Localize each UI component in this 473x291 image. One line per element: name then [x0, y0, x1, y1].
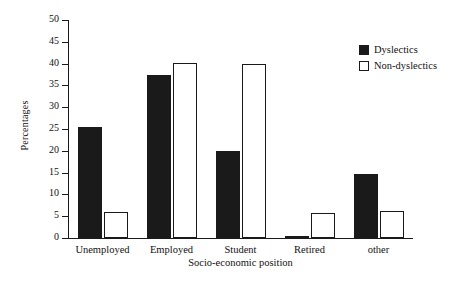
- x-axis-category-label: Unemployed: [68, 243, 137, 256]
- y-axis-tick-label: 15: [49, 166, 59, 178]
- y-axis-tick: 0: [62, 238, 68, 239]
- y-axis-tick-label: 20: [49, 144, 59, 156]
- bar-non-dyslectics: [104, 212, 128, 238]
- x-axis-category-label: Employed: [137, 243, 206, 256]
- y-axis-tick: 20: [62, 151, 68, 152]
- y-axis-line: [68, 20, 69, 239]
- x-axis-title: Socio-economic position: [68, 257, 413, 268]
- bar-non-dyslectics: [380, 211, 404, 238]
- y-axis-tick: 25: [62, 129, 68, 130]
- legend-swatch-non-dyslectics: [359, 61, 369, 71]
- bar-dyslectics: [147, 75, 171, 238]
- x-axis-category-label: Student: [206, 243, 275, 256]
- x-axis-category-label: Retired: [275, 243, 344, 256]
- bar-non-dyslectics: [311, 213, 335, 238]
- y-axis-tick-label: 25: [49, 122, 59, 134]
- y-axis-tick-label: 40: [49, 57, 59, 69]
- legend-label-dyslectics: Dyslectics: [374, 44, 418, 56]
- y-axis-tick: 45: [62, 42, 68, 43]
- bar-non-dyslectics: [173, 63, 197, 238]
- legend-item-non-dyslectics: Non-dyslectics: [359, 58, 471, 73]
- chart-legend: Dyslectics Non-dyslectics: [359, 42, 471, 74]
- y-axis-tick: 5: [62, 216, 68, 217]
- y-axis-tick: 40: [62, 64, 68, 65]
- y-axis-tick-label: 5: [54, 209, 59, 221]
- y-axis-tick-label: 50: [49, 13, 59, 25]
- legend-swatch-dyslectics: [359, 45, 369, 55]
- y-axis-tick: 35: [62, 85, 68, 86]
- x-axis-line: [68, 238, 413, 239]
- x-axis-category-label: other: [344, 243, 413, 256]
- bar-group: [285, 20, 335, 238]
- y-axis-tick-label: 35: [49, 78, 59, 90]
- bar-dyslectics: [354, 174, 378, 238]
- bar-dyslectics: [216, 151, 240, 238]
- y-axis-tick-label: 0: [54, 231, 59, 243]
- bar-group: [78, 20, 128, 238]
- legend-label-non-dyslectics: Non-dyslectics: [374, 60, 437, 72]
- y-axis-tick-label: 10: [49, 187, 59, 199]
- y-axis-title: Percentages: [19, 76, 30, 176]
- y-axis-tick-label: 45: [49, 35, 59, 47]
- bar-group: [216, 20, 266, 238]
- y-axis-tick: 10: [62, 194, 68, 195]
- y-axis-tick-label: 30: [49, 100, 59, 112]
- y-axis-tick: 15: [62, 173, 68, 174]
- y-axis-tick: 30: [62, 107, 68, 108]
- bar-group: [147, 20, 197, 238]
- bar-chart-figure: Percentages 05101520253035404550 Unemplo…: [0, 0, 473, 291]
- bar-non-dyslectics: [242, 64, 266, 238]
- bar-dyslectics: [285, 236, 309, 238]
- bar-dyslectics: [78, 127, 102, 238]
- legend-item-dyslectics: Dyslectics: [359, 42, 471, 57]
- y-axis-tick: 50: [62, 20, 68, 21]
